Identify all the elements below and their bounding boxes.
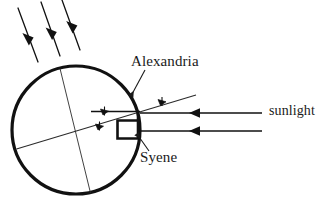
earth-circle [12,66,140,194]
sunlight-ray-upper-arrowhead [189,108,200,118]
syene-well-notch [118,121,140,139]
incoming-ray-2 [41,2,60,56]
eratosthenes-diagram: Alexandria Syene sunlight [0,0,324,203]
alexandria-pointer-line [131,70,145,96]
label-sunlight: sunlight [269,104,315,118]
angle-tick-group [96,97,167,131]
sunlight-ray-arrowheads [189,108,200,136]
incoming-ray-1 [18,8,38,62]
label-syene: Syene [140,150,177,165]
incoming-sunray-arrowheads [22,21,77,46]
incoming-ray-3-arrowhead [66,21,77,34]
sunlight-ray-group [140,113,262,131]
earth-axis-line [60,69,91,194]
alexandria-sightline [17,95,197,149]
diagram-canvas [0,0,324,203]
label-alexandria: Alexandria [131,54,199,69]
sunlight-ray-lower-arrowhead [189,126,200,136]
